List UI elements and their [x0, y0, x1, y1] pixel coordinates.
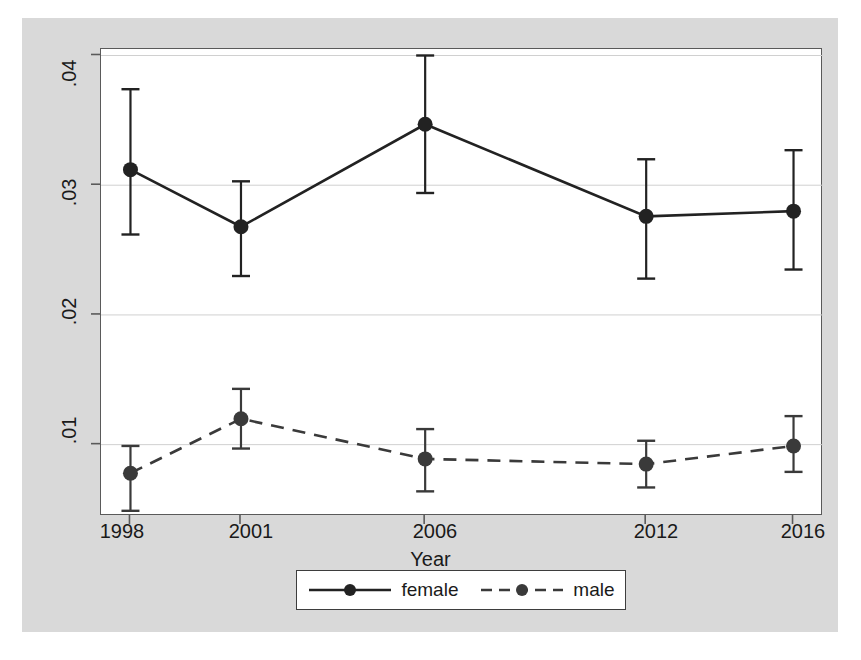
legend-entry-male: male [479, 579, 614, 601]
axis-ticks [0, 0, 861, 660]
legend-label-female: female [401, 579, 458, 601]
legend-swatch-male-icon [479, 581, 565, 599]
legend-label-male: male [573, 579, 614, 601]
legend-entry-female: female [307, 579, 458, 601]
legend: female male [296, 570, 626, 610]
legend-swatch-female-icon [307, 581, 393, 599]
chart-figure: .04 .03 .02 .01 Linear Prediction 1998 2… [0, 0, 861, 660]
